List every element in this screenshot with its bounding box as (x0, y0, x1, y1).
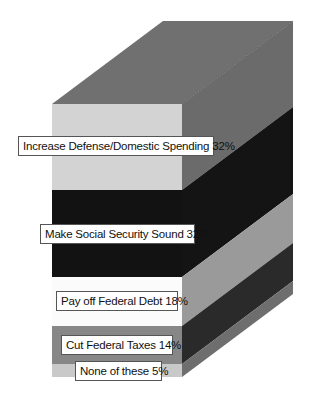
data-label-pay-off-federal-debt: Pay off Federal Debt 18% (56, 291, 178, 311)
data-label-make-social-security-sound: Make Social Security Sound 32% (40, 224, 195, 244)
data-label-none-of-these: None of these 5% (75, 361, 162, 381)
data-label-increase-defense-domestic-spending: Increase Defense/Domestic Spending 32% (18, 136, 214, 156)
data-label-cut-federal-taxes: Cut Federal Taxes 14% (61, 335, 173, 355)
